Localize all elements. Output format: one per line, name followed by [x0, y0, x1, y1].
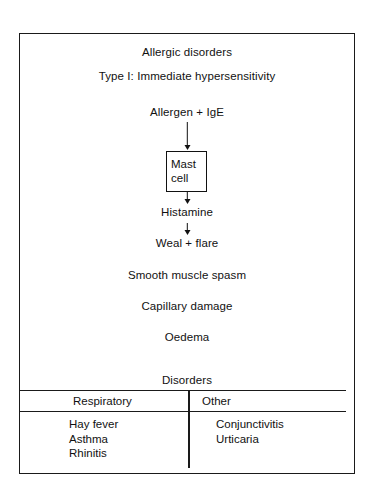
- flow-node-oedema: Oedema: [20, 331, 354, 344]
- flow-node-mast-cell: Mast cell: [166, 151, 207, 192]
- table-column-respiratory-items: Hay fever Asthma Rhinitis: [69, 417, 118, 461]
- mast-cell-label-line-2: cell: [171, 172, 188, 185]
- list-item: Asthma: [69, 432, 118, 447]
- arrow-down-icon: [183, 122, 192, 151]
- table-header-respiratory: Respiratory: [73, 395, 132, 408]
- diagram-title-secondary: Type I: Immediate hypersensitivity: [20, 70, 354, 83]
- disorders-heading: Disorders: [20, 374, 354, 387]
- disorders-table: Respiratory Other Hay fever Asthma Rhini…: [20, 390, 346, 475]
- table-rule-middle: [20, 411, 346, 412]
- diagram-frame: Allergic disorders Type I: Immediate hyp…: [19, 33, 355, 474]
- flow-node-smooth-muscle-spasm: Smooth muscle spasm: [20, 269, 354, 282]
- list-item: Conjunctivitis: [216, 417, 284, 432]
- flow-node-weal-flare: Weal + flare: [20, 237, 354, 250]
- list-item: Hay fever: [69, 417, 118, 432]
- mast-cell-label-line-1: Mast: [171, 158, 196, 171]
- list-item: Rhinitis: [69, 446, 118, 461]
- table-column-divider: [188, 390, 190, 468]
- arrow-down-icon: [183, 192, 192, 205]
- diagram-title-primary: Allergic disorders: [20, 46, 354, 59]
- flow-node-histamine: Histamine: [20, 206, 354, 219]
- table-rule-top: [20, 390, 346, 391]
- list-item: Urticaria: [216, 432, 284, 447]
- table-column-other-items: Conjunctivitis Urticaria: [216, 417, 284, 446]
- flow-node-allergen: Allergen + IgE: [20, 106, 354, 119]
- table-header-other: Other: [202, 395, 231, 408]
- flow-node-capillary-damage: Capillary damage: [20, 300, 354, 313]
- arrow-down-icon: [183, 223, 192, 236]
